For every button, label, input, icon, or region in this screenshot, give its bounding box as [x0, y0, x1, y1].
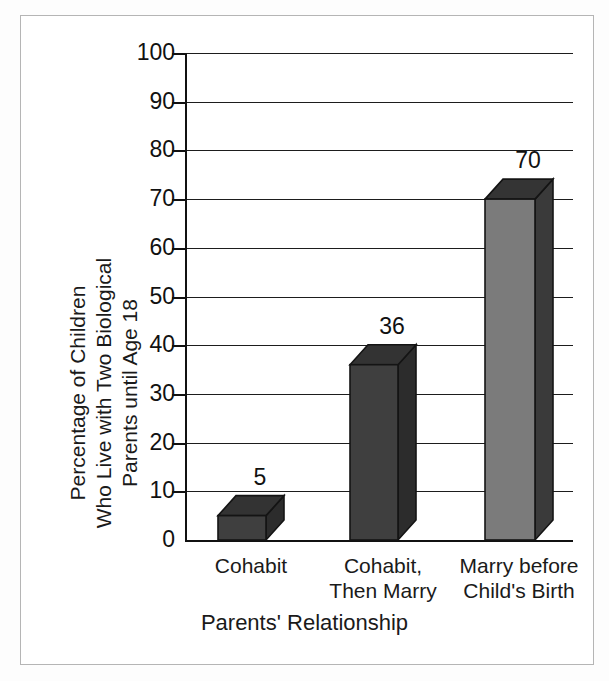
chart-figure: 1009080706050403020100 53670 CohabitCoha… — [0, 0, 609, 681]
y-axis-title: Percentage of Children Who Live with Two… — [65, 163, 143, 623]
y-axis-title-wrapper: Percentage of Children Who Live with Two… — [40, 60, 120, 530]
x-tick-label-3: Marry before Child's Birth — [429, 553, 609, 603]
bar-3-side-face — [535, 179, 553, 540]
bar-3-front-face — [485, 199, 535, 540]
bar-3-value-label: 70 — [483, 149, 573, 172]
